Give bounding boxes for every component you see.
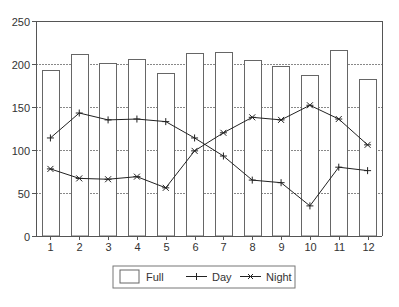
bar-full-4: [129, 60, 146, 237]
x-tick-label: 3: [105, 241, 111, 253]
y-tick-label: 50: [18, 188, 30, 200]
legend-label-day: Day: [212, 271, 232, 283]
x-tick-label: 4: [134, 241, 140, 253]
x-tick-label: 11: [334, 241, 345, 253]
bar-full-10: [302, 76, 319, 237]
bar-full-6: [187, 54, 204, 237]
x-tick-label: 12: [362, 241, 374, 253]
x-tick-label: 5: [163, 241, 169, 253]
y-tick-label: 150: [12, 102, 30, 114]
bar-full-3: [100, 64, 117, 237]
bar-full-7: [216, 53, 233, 237]
bars-full: [43, 51, 377, 237]
x-tick-label: 2: [76, 241, 82, 253]
bar-full-9: [273, 67, 290, 237]
bar-full-8: [245, 61, 262, 237]
y-tick-label: 250: [12, 16, 30, 28]
chart-container: 050100150200250123456789101112 Full Day …: [0, 0, 399, 307]
bar-full-12: [360, 80, 377, 237]
x-tick-label: 10: [304, 241, 316, 253]
x-tick-label: 1: [47, 241, 53, 253]
x-tick-label: 6: [192, 241, 198, 253]
y-tick-label: 200: [12, 59, 30, 71]
bar-full-1: [43, 71, 60, 237]
x-tick-label: 9: [278, 241, 284, 253]
y-tick-label: 100: [12, 145, 30, 157]
bar-full-11: [331, 51, 348, 237]
legend-full-swatch: [120, 270, 139, 283]
line-day: [50, 113, 367, 206]
bar-full-2: [72, 55, 89, 237]
combo-chart: 050100150200250123456789101112 Full Day …: [0, 0, 399, 307]
x-tick-label: 8: [249, 241, 255, 253]
bar-full-5: [158, 74, 175, 237]
x-tick-label: 7: [220, 241, 226, 253]
y-tick-label: 0: [24, 231, 30, 243]
legend-label-night: Night: [266, 271, 292, 283]
legend-label-full: Full: [146, 271, 164, 283]
legend: Full Day Night: [113, 266, 295, 288]
